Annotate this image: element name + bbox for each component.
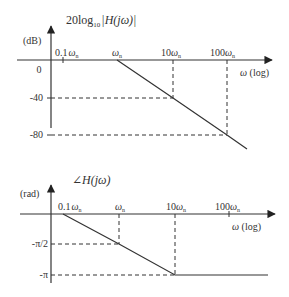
mag-y-tick-0: 0 [37, 64, 42, 75]
phase-x-tick-10wn: 10ωn [166, 201, 186, 213]
mag-y-tick-minus80: -80 [30, 129, 43, 140]
mag-y-tick-minus40: -40 [30, 92, 43, 103]
mag-x-tick-0.1wn: 0.1ωn [55, 47, 79, 59]
phase-y-tick-minus-pi: -π [40, 269, 48, 280]
phase-x-tick-wn: ωn [115, 201, 125, 213]
magnitude-x-axis-label: ω (log) [240, 67, 269, 79]
phase-x-tick-100wn: 100ωn [215, 201, 240, 213]
phase-plot: ∠H(jω) (rad) 0.1ωn ωn 10ωn 100ωn ω (log)… [20, 173, 275, 283]
mag-x-tick-10wn: 10ωn [161, 47, 181, 59]
phase-y-tick-minus-pi-half: -π/2 [32, 238, 48, 249]
phase-title: ∠H(jω) [72, 173, 111, 187]
magnitude-y-unit: (dB) [23, 35, 41, 47]
mag-x-tick-wn: ωn [112, 47, 122, 59]
magnitude-guides [51, 60, 227, 135]
phase-y-unit: (rad) [20, 188, 39, 200]
magnitude-title: 20log10|H(jω)| [66, 13, 136, 29]
mag-x-tick-100wn: 100ωn [210, 47, 235, 59]
phase-guides [51, 214, 175, 275]
phase-x-tick-0.1wn: 0.1ωn [58, 201, 82, 213]
phase-x-axis-label: ω (log) [232, 221, 261, 233]
magnitude-plot: 20log10|H(jω)| (dB) 0.1ωn ωn 10ωn 100ωn … [17, 13, 272, 149]
